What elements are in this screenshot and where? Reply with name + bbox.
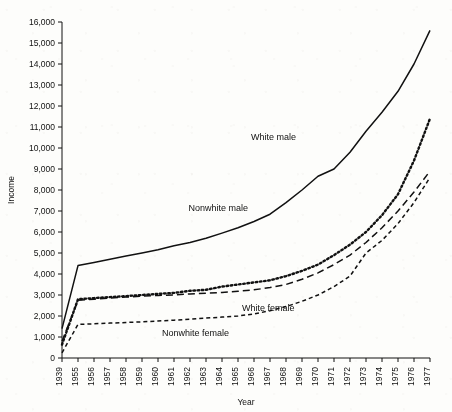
y-tick-label: 5,000 (34, 248, 56, 258)
y-tick-label: 7,000 (34, 206, 56, 216)
x-tick-label: 1977 (422, 367, 432, 386)
y-tick-label: 4,000 (34, 269, 56, 279)
x-tick-label: 1969 (294, 367, 304, 386)
y-tick-label: 15,000 (29, 38, 55, 48)
y-tick-label: 6,000 (34, 227, 56, 237)
x-tick-label: 1971 (326, 367, 336, 386)
y-tick-label: 13,000 (29, 80, 55, 90)
y-tick-label: 16,000 (29, 17, 55, 27)
y-tick-label: 8,000 (34, 185, 56, 195)
series-label-white-female: White female (242, 303, 295, 313)
x-axis-ticks: 1939195519561957195819591960196119621963… (54, 358, 432, 386)
series-label-nonwhite-female: Nonwhite female (162, 328, 229, 338)
y-tick-label: 1,000 (34, 332, 56, 342)
y-axis-title: Income (6, 176, 16, 204)
y-tick-label: 3,000 (34, 290, 56, 300)
x-tick-label: 1958 (118, 367, 128, 386)
x-tick-label: 1972 (342, 367, 352, 386)
y-tick-label: 11,000 (30, 122, 56, 132)
y-tick-label: 0 (50, 353, 55, 363)
x-tick-label: 1961 (166, 367, 176, 386)
x-tick-label: 1960 (150, 367, 160, 386)
x-tick-label: 1965 (230, 367, 240, 386)
series-line-white-male (62, 30, 430, 328)
x-tick-label: 1964 (214, 367, 224, 386)
x-tick-label: 1967 (262, 367, 272, 386)
x-tick-label: 1966 (246, 367, 256, 386)
x-axis-title: Year (237, 397, 254, 407)
y-tick-label: 9,000 (34, 164, 56, 174)
y-tick-label: 10,000 (29, 143, 55, 153)
income-by-race-and-sex-line-chart: 01,0002,0003,0004,0005,0006,0007,0008,00… (0, 0, 452, 412)
x-tick-label: 1974 (374, 367, 384, 386)
y-tick-label: 14,000 (29, 59, 55, 69)
y-tick-label: 2,000 (34, 311, 56, 321)
series-label-nonwhite-male: Nonwhite male (188, 203, 248, 213)
x-tick-label: 1955 (70, 367, 80, 386)
x-tick-label: 1970 (310, 367, 320, 386)
x-tick-label: 1968 (278, 367, 288, 386)
x-tick-label: 1973 (358, 367, 368, 386)
x-tick-label: 1976 (406, 367, 416, 386)
series-line-white-female (62, 171, 430, 341)
series-label-white-male: White male (251, 132, 296, 142)
x-tick-label: 1975 (390, 367, 400, 386)
x-tick-label: 1963 (198, 367, 208, 386)
y-axis-ticks: 01,0002,0003,0004,0005,0006,0007,0008,00… (29, 17, 62, 363)
x-tick-label: 1957 (102, 367, 112, 386)
x-tick-label: 1962 (182, 367, 192, 386)
x-tick-label: 1956 (86, 367, 96, 386)
x-tick-label: 1939 (54, 367, 64, 386)
x-tick-label: 1959 (134, 367, 144, 386)
y-tick-label: 12,000 (29, 101, 55, 111)
chart-canvas: 01,0002,0003,0004,0005,0006,0007,0008,00… (0, 0, 452, 412)
